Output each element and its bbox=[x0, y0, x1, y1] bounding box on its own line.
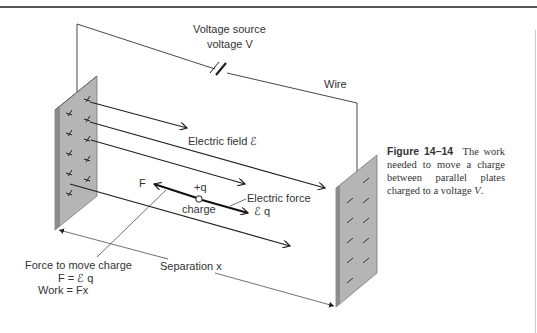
f-equation-label: F = ℰ q bbox=[58, 272, 93, 284]
force-f-label: F bbox=[139, 177, 146, 189]
eq-label: ℰ q bbox=[254, 205, 270, 217]
electric-force-label: Electric force bbox=[247, 192, 311, 204]
separation-label: Separation x bbox=[160, 260, 222, 272]
force-to-move-label: Force to move charge bbox=[25, 259, 132, 271]
figure-caption: Figure 14–14 The work needed to move a c… bbox=[387, 145, 505, 197]
wire-label: Wire bbox=[324, 78, 347, 90]
charge-icon bbox=[196, 196, 202, 202]
plus-q-label: +q bbox=[194, 181, 207, 193]
caption-end: . bbox=[481, 185, 484, 196]
work-equation-label: Work = Fx bbox=[38, 284, 89, 296]
voltage-v-label: voltage V bbox=[207, 38, 254, 50]
leader-lines bbox=[97, 190, 246, 257]
right-plate bbox=[336, 155, 377, 307]
charge-label: charge bbox=[182, 203, 216, 215]
left-plate bbox=[55, 76, 97, 230]
voltage-source-label: Voltage source bbox=[193, 23, 266, 35]
electric-field-lines bbox=[70, 102, 325, 246]
figure-number: Figure 14–14 bbox=[387, 145, 453, 157]
electric-field-label: Electric field ℰ bbox=[188, 135, 257, 147]
